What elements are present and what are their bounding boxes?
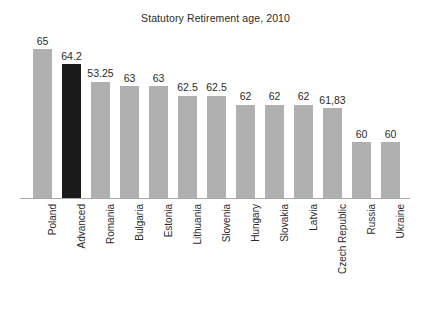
bar-rect (236, 105, 255, 198)
bar-value-label: 62.5 (206, 82, 226, 93)
bar-rect (178, 96, 197, 198)
x-axis-line (20, 198, 410, 199)
bar-value-label: 60 (385, 129, 397, 140)
category-label: Slovakia (279, 204, 290, 242)
bar-bulgaria: 63 (120, 86, 139, 198)
bar-value-label: 60 (356, 129, 368, 140)
bar-rect (265, 105, 284, 198)
plot-area: 6564.253.25636362.562.562626261,836060 P… (0, 0, 431, 313)
bar-value-label: 61,83 (319, 95, 345, 106)
bar-rect (323, 108, 342, 198)
category-label: Hungary (250, 204, 261, 242)
bar-czech-republic: 61,83 (323, 108, 342, 198)
bar-rect (352, 142, 371, 198)
bar-lithuania: 62.5 (178, 96, 197, 198)
category-label: Estonia (163, 204, 174, 237)
bar-rect (62, 64, 81, 198)
bar-slovakia: 62 (265, 105, 284, 198)
bar-value-label: 62 (240, 91, 252, 102)
category-label: Latvia (308, 204, 319, 231)
bar-value-label: 62 (269, 91, 281, 102)
bar-rect (149, 86, 168, 198)
bar-rect (207, 96, 226, 198)
category-label: Russia (366, 204, 377, 235)
bar-rect (120, 86, 139, 198)
bar-poland: 65 (33, 49, 52, 198)
bar-advanced: 64.2 (62, 64, 81, 198)
bar-estonia: 63 (149, 86, 168, 198)
category-label: Bulgaria (134, 204, 145, 241)
bar-rect (381, 142, 400, 198)
bar-chart: Statutory Retirement age, 2010 6564.253.… (0, 0, 431, 313)
category-label: Ukraine (395, 204, 406, 238)
category-label: Poland (47, 204, 58, 235)
bar-value-label: 62 (298, 91, 310, 102)
category-label: Czech Republic (337, 204, 348, 274)
bar-value-label: 64.2 (61, 51, 81, 62)
bar-latvia: 62 (294, 105, 313, 198)
bar-rect (294, 105, 313, 198)
category-label: Romania (105, 204, 116, 244)
category-label: Advanced (76, 204, 87, 248)
bar-hungary: 62 (236, 105, 255, 198)
bar-russia: 60 (352, 142, 371, 198)
bar-romania: 53.25 (91, 82, 110, 198)
bar-rect (33, 49, 52, 198)
bar-slovenia: 62.5 (207, 96, 226, 198)
bar-ukraine: 60 (381, 142, 400, 198)
bar-value-label: 62.5 (177, 82, 197, 93)
bar-value-label: 65 (37, 36, 49, 47)
category-label: Slovenia (221, 204, 232, 242)
bar-rect (91, 82, 110, 198)
bar-value-label: 63 (124, 73, 136, 84)
bar-value-label: 63 (153, 73, 165, 84)
bar-value-label: 53.25 (87, 68, 113, 79)
category-label: Lithuania (192, 204, 203, 245)
